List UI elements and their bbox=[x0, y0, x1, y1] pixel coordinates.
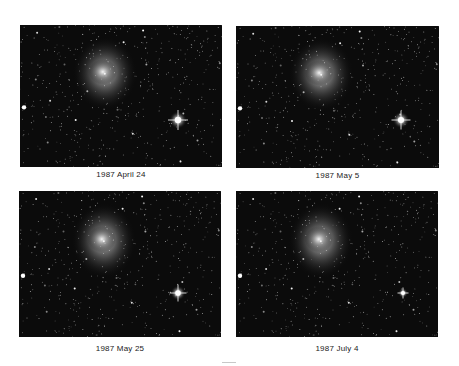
caption-may-25: 1987 May 25 bbox=[19, 344, 221, 353]
photo-panel-april-24 bbox=[20, 25, 222, 167]
caption-may-5: 1987 May 5 bbox=[236, 171, 439, 180]
photo-panel-may-5 bbox=[236, 26, 439, 168]
caption-april-24: 1987 April 24 bbox=[20, 170, 222, 179]
photo-panel-july-4 bbox=[236, 191, 438, 337]
page-mark bbox=[222, 362, 236, 363]
starfield-image bbox=[236, 191, 438, 337]
starfield-image bbox=[19, 191, 221, 337]
starfield-image bbox=[236, 26, 439, 168]
photo-panel-may-25 bbox=[19, 191, 221, 337]
starfield-image bbox=[20, 25, 222, 167]
caption-july-4: 1987 July 4 bbox=[236, 344, 438, 353]
